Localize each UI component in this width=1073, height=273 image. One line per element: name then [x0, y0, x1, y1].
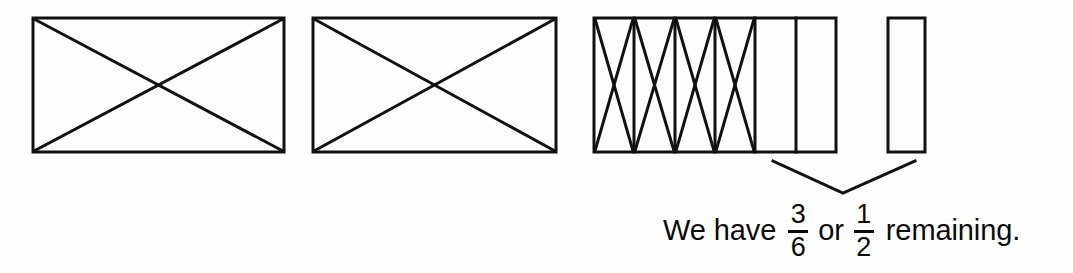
sixths-part-1-cross	[595, 19, 633, 151]
separated-sixth	[888, 18, 925, 152]
remaining-brace-path	[773, 161, 915, 193]
sixths-part-2-cross	[635, 19, 674, 151]
sixths-part-4-cross	[716, 19, 754, 151]
fraction-diagram	[0, 0, 1073, 273]
whole-rectangle-1	[33, 18, 284, 152]
sixths-rectangle	[594, 18, 836, 152]
remaining-brace-icon	[773, 161, 915, 193]
separated-sixth-outline	[888, 18, 925, 152]
sixths-part-3-cross	[676, 19, 714, 151]
whole-rectangle-2	[313, 18, 556, 152]
figure-page: We have 3 6 or 1 2 remaining.	[0, 0, 1073, 273]
